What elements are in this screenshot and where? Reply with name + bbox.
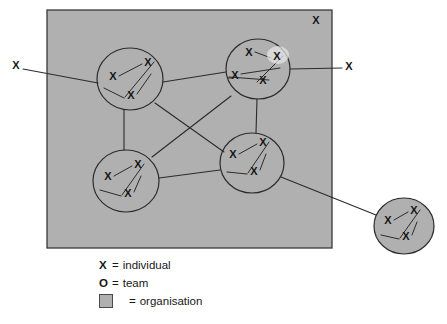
team-top-left-member-individual: X	[127, 89, 135, 101]
team-external: XXX	[374, 198, 434, 254]
legend-row-team: O = team	[99, 274, 349, 292]
legend-equals-organisation: =	[129, 295, 136, 307]
team-external-boundary	[374, 198, 434, 254]
legend-equals-team: =	[112, 277, 119, 289]
individual-inside-top-right: X	[312, 14, 320, 26]
legend-row-organisation: = organisation	[99, 292, 349, 310]
team-top-right-member-individual: X	[273, 50, 281, 62]
legend-key-individual: X	[99, 259, 110, 271]
legend-label-individual: individual	[123, 259, 171, 271]
individual-left-outside: X	[12, 59, 20, 71]
team-top-left-member-individual: X	[109, 70, 117, 82]
team-bottom-left-member-individual: X	[104, 170, 112, 182]
legend-row-individual: X = individual	[99, 256, 349, 274]
team-top-right-member-individual: X	[231, 69, 239, 81]
legend-label-team: team	[123, 277, 149, 289]
team-bottom-left-member-individual: X	[134, 158, 142, 170]
legend-label-organisation: organisation	[140, 295, 203, 307]
team-external-member-individual: X	[410, 204, 418, 216]
team-bottom-middle-member-individual: X	[250, 165, 258, 177]
network-diagram: XXXXXXXXXXXXXXXX XXX X = individual O = …	[0, 0, 447, 324]
team-bottom-left-member-individual: X	[124, 187, 132, 199]
team-external-member-individual: X	[384, 214, 392, 226]
organisation-swatch-icon	[99, 294, 113, 308]
legend: X = individual O = team = organisation	[99, 256, 349, 310]
team-bottom-middle-member-individual: X	[229, 148, 237, 160]
legend-key-team: O	[99, 277, 110, 289]
organisation-boundary-box	[47, 10, 332, 248]
legend-equals-individual: =	[112, 259, 119, 271]
individual-right-outside: X	[345, 60, 353, 72]
team-top-left-member-individual: X	[144, 56, 152, 68]
team-top-right-member-individual: X	[245, 46, 253, 58]
team-external-member-individual: X	[402, 230, 410, 242]
team-top-right-member-individual: X	[259, 74, 267, 86]
team-bottom-middle-member-individual: X	[259, 136, 267, 148]
